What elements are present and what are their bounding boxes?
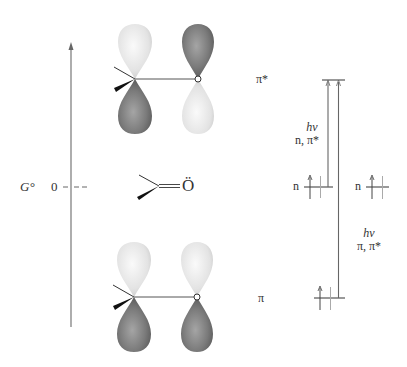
carbon-lower-lobe xyxy=(118,79,152,134)
carbon-upper-lobe xyxy=(118,24,152,79)
pi-pi-star-transition-label: π, π* xyxy=(345,240,393,252)
oxygen-upper-lobe xyxy=(181,242,213,297)
n-level-right-label: n xyxy=(355,180,361,192)
axis-label: G° xyxy=(20,180,35,193)
carbon-upper-lobe xyxy=(117,242,151,297)
oxygen-symbol: Ö xyxy=(182,177,194,194)
pi-star-orbital xyxy=(114,24,214,134)
energy-level-diagram xyxy=(304,80,389,310)
pi-orbital xyxy=(113,242,213,352)
oxygen-lower-lobe xyxy=(182,79,214,134)
pi-pi-star-energy-label: hν xyxy=(354,227,384,239)
oxygen-atom xyxy=(195,76,201,82)
energy-axis xyxy=(63,42,87,327)
carbonyl-structure xyxy=(137,175,180,200)
n-pi-star-transition-label: n, π* xyxy=(290,134,324,146)
n-pi-star-energy-label: hν xyxy=(300,121,324,133)
diagram-canvas xyxy=(0,0,407,367)
mo-diagram: G° 0 Ö π* π n n hν n, π* hν π, π* xyxy=(0,0,407,367)
oxygen-atom xyxy=(194,294,200,300)
oxygen-upper-lobe xyxy=(182,24,214,79)
n-level-left-label: n xyxy=(293,180,299,192)
pi-orbital-label: π xyxy=(258,292,264,304)
wedge-bond-icon xyxy=(137,186,159,200)
pi-star-orbital-label: π* xyxy=(256,73,268,85)
oxygen-lower-lobe xyxy=(181,297,213,352)
axis-arrowhead-icon xyxy=(69,42,74,50)
carbon-lower-lobe xyxy=(117,297,151,352)
axis-zero-label: 0 xyxy=(51,180,58,193)
